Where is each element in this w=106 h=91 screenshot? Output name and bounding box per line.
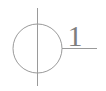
schematic-diagram: 1: [0, 0, 106, 91]
diagram-canvas: 1: [0, 0, 106, 91]
canvas-background: [0, 0, 106, 91]
callout-label-1: 1: [68, 19, 83, 52]
